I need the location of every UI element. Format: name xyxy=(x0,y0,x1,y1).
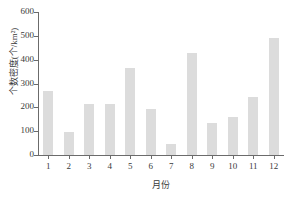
x-tick-label: 5 xyxy=(120,161,140,172)
y-tick-mark xyxy=(34,107,38,108)
x-tick-mark xyxy=(192,155,193,159)
x-tick-mark xyxy=(274,155,275,159)
x-tick-label: 7 xyxy=(161,161,181,172)
bar xyxy=(43,91,53,155)
x-tick-mark xyxy=(48,155,49,159)
bar xyxy=(64,132,74,155)
y-tick-mark xyxy=(34,84,38,85)
y-tick-label: 500 xyxy=(21,30,35,41)
x-tick-label: 3 xyxy=(79,161,99,172)
x-tick-label: 4 xyxy=(100,161,120,172)
y-axis-line xyxy=(38,12,39,155)
y-tick-label: 400 xyxy=(21,54,35,65)
y-tick-mark xyxy=(34,36,38,37)
bar xyxy=(166,144,176,155)
x-tick-mark xyxy=(130,155,131,159)
x-tick-mark xyxy=(171,155,172,159)
bar xyxy=(84,104,94,155)
x-tick-mark xyxy=(89,155,90,159)
bar-chart: 个数密度(个/km²) 0100200300400500600 12345678… xyxy=(0,0,290,203)
y-tick-label: 300 xyxy=(21,78,35,89)
bar xyxy=(125,68,135,155)
x-tick-mark xyxy=(233,155,234,159)
plot-area: 0100200300400500600 123456789101112 xyxy=(38,12,284,155)
x-tick-mark xyxy=(253,155,254,159)
y-tick-mark xyxy=(34,12,38,13)
y-tick-label: 200 xyxy=(21,101,35,112)
x-tick-label: 1 xyxy=(38,161,58,172)
bar xyxy=(228,117,238,155)
x-tick-label: 10 xyxy=(223,161,243,172)
bar xyxy=(187,53,197,155)
x-tick-mark xyxy=(212,155,213,159)
bar xyxy=(248,97,258,155)
x-tick-label: 11 xyxy=(243,161,263,172)
y-tick-mark xyxy=(34,155,38,156)
y-tick-mark xyxy=(34,131,38,132)
y-tick-label: 600 xyxy=(21,6,35,17)
bar xyxy=(146,109,156,155)
y-tick-label: 0 xyxy=(30,149,35,160)
bar xyxy=(105,104,115,155)
x-tick-mark xyxy=(69,155,70,159)
bar xyxy=(269,38,279,155)
x-tick-label: 9 xyxy=(202,161,222,172)
y-tick-mark xyxy=(34,60,38,61)
x-tick-label: 12 xyxy=(264,161,284,172)
y-tick-label: 100 xyxy=(21,125,35,136)
bar xyxy=(207,123,217,155)
x-tick-mark xyxy=(110,155,111,159)
x-tick-mark xyxy=(151,155,152,159)
x-tick-label: 2 xyxy=(59,161,79,172)
x-tick-label: 6 xyxy=(141,161,161,172)
x-axis-title: 月份 xyxy=(38,178,284,191)
x-tick-label: 8 xyxy=(182,161,202,172)
x-axis-line xyxy=(38,155,284,156)
y-axis-title: 个数密度(个/km²) xyxy=(7,0,20,127)
